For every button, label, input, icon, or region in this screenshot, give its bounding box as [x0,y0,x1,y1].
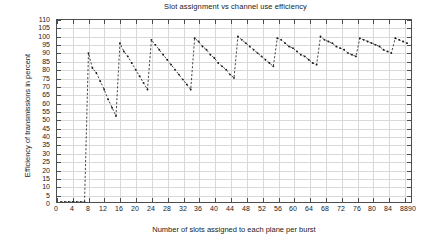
series-point [115,115,117,117]
series-point [202,46,204,48]
chart-title: Slot assignment vs channel use efficienc… [0,2,435,11]
series-point [331,42,333,44]
x-axis-tick-label: 28 [163,205,171,212]
series-point [158,49,160,51]
series-point [257,52,259,54]
series-point [233,77,235,79]
x-axis-tick-label: 48 [242,205,250,212]
x-axis-tick-label: 68 [321,205,329,212]
y-axis-tick-label: 110 [0,16,50,23]
series-point [80,201,82,202]
y-axis-tick-label: 0 [0,200,50,207]
series-point [406,42,408,44]
series-point [119,42,121,44]
y-axis-tick-label: 105 [0,24,50,31]
y-axis-tick-label: 60 [0,100,50,107]
series-point [339,47,341,49]
series-point [304,55,306,57]
series-point [390,52,392,54]
series-point [123,50,125,52]
series-point [351,54,353,56]
series-point [229,74,231,76]
series-point [398,39,400,41]
series-point [268,62,270,64]
y-axis-tick-label: 20 [0,167,50,174]
series-point [253,49,255,51]
series-point [363,39,365,41]
series-point [147,89,149,91]
series-point [312,62,314,64]
x-axis-tick-label: 76 [353,205,361,212]
y-axis-tick-label: 35 [0,141,50,148]
series-point [292,47,294,49]
series-point [60,201,62,202]
series-point [316,64,318,66]
series-point [394,37,396,39]
series-point [91,67,93,69]
series-point [308,59,310,61]
series-point [99,80,101,82]
series-point [88,52,90,54]
y-axis-tick-label: 30 [0,150,50,157]
series-point [347,52,349,54]
series-point [237,36,239,38]
y-axis-tick-label: 80 [0,66,50,73]
series-point [355,55,357,57]
x-axis-tick-label: 44 [226,205,234,212]
y-axis-tick-label: 55 [0,108,50,115]
series-point [178,74,180,76]
y-axis-tick-label: 100 [0,33,50,40]
x-axis-tick-label: 72 [337,205,345,212]
y-axis-tick-label: 65 [0,91,50,98]
x-axis-tick-label: 56 [274,205,282,212]
series-point [284,42,286,44]
series-point [320,36,322,38]
series-point [186,84,188,86]
series-point [241,39,243,41]
series-point [64,201,66,202]
x-axis-tick-label: 88 [400,205,408,212]
x-axis-tick-label: 90 [408,205,416,212]
x-axis-tick-label: 4 [70,205,74,212]
series-point [68,201,70,202]
y-axis-tick-label: 10 [0,183,50,190]
y-axis-tick-label: 5 [0,192,50,199]
x-axis-tick-label: 24 [147,205,155,212]
series-point [213,57,215,59]
series-point [261,55,263,57]
y-axis-tick-label: 70 [0,83,50,90]
series-point [375,44,377,46]
x-axis-tick-label: 84 [384,205,392,212]
plot-area [56,19,412,203]
series-point [245,42,247,44]
y-axis-tick-label: 75 [0,75,50,82]
x-axis-title: Number of slots assigned to each plane p… [56,225,412,234]
y-axis-tick-label: 15 [0,175,50,182]
series-point [335,46,337,48]
x-axis-tick-label: 64 [305,205,313,212]
chart-figure: Slot assignment vs channel use efficienc… [0,0,435,248]
series-point [131,62,133,64]
series-point [111,107,113,109]
series-point [343,49,345,51]
data-series-efficiency [57,20,411,202]
x-axis-tick-label: 8 [86,205,90,212]
series-line [61,37,407,202]
series-point [296,50,298,52]
series-point [327,41,329,43]
y-axis-tick-label: 95 [0,41,50,48]
series-point [280,39,282,41]
series-point [107,98,109,100]
series-point [194,37,196,39]
series-point [198,41,200,43]
series-point [217,62,219,64]
series-point [162,54,164,56]
series-point [135,69,137,71]
series-point [379,46,381,48]
series-point [206,49,208,51]
series-point [166,59,168,61]
series-point [225,69,227,71]
series-point [276,37,278,39]
series-point [386,50,388,52]
series-point [402,41,404,43]
